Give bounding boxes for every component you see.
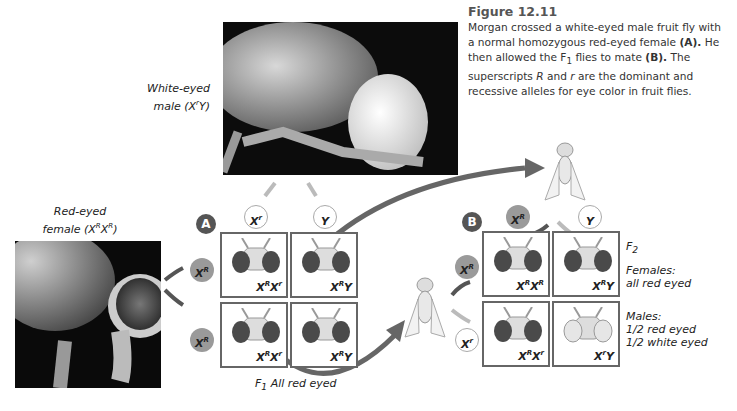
gamete-base: X — [511, 214, 519, 227]
f2-females-summary: Females: all red eyed — [626, 264, 691, 290]
genotype-label: XRY — [330, 350, 352, 364]
males-line-2: 1/2 white eyed — [626, 336, 708, 349]
f2-males-summary: Males: 1/2 red eyed 1/2 white eyed — [626, 310, 708, 349]
red-eyed-fly-head-icon — [492, 307, 544, 347]
gamete-female-1: XR — [190, 258, 214, 282]
gamete-male-2: Y — [313, 205, 337, 229]
dark-arrow-icon — [452, 282, 470, 295]
red-eyed-fly-head-icon — [230, 238, 282, 278]
diagram-arrows — [0, 0, 737, 411]
red-eyed-fly-head-icon — [562, 237, 614, 277]
punnett-b-cell-2: XRY — [552, 231, 620, 297]
punnett-b-cell-4: XrY — [552, 301, 620, 367]
gamete-base: X — [195, 267, 203, 280]
gamete-base: X — [461, 338, 469, 351]
punnett-b-cell-1: XRXR — [482, 231, 550, 297]
male-fly-drawing-icon — [545, 143, 585, 200]
red-eyed-fly-head-icon — [300, 308, 352, 348]
genotype-label: XRXR — [516, 279, 544, 293]
punnett-a-cell-3: XRXr — [220, 302, 288, 368]
gamete-male-2: Y — [578, 205, 602, 229]
genotype-label: XRXr — [256, 350, 282, 364]
genotype-label: XrY — [594, 349, 614, 363]
genotype-label: XRXr — [256, 280, 282, 294]
gamete-sup: r — [259, 214, 262, 222]
cross-a-badge: A — [196, 214, 216, 234]
gamete-sup: R — [520, 213, 525, 221]
red-eyed-fly-head-icon — [492, 237, 544, 277]
punnett-a-cell-4: XRY — [290, 302, 358, 368]
white-eyed-fly-head-icon — [562, 307, 614, 347]
red-eyed-fly-head-icon — [230, 308, 282, 348]
punnett-a-cell-2: XRY — [290, 232, 358, 298]
gamete-male-1: XR — [506, 205, 530, 229]
gamete-base: Y — [586, 215, 594, 228]
gamete-base: X — [460, 264, 468, 277]
gamete-sup: R — [469, 263, 474, 271]
males-line-1: 1/2 red eyed — [626, 323, 708, 336]
punnett-a-cell-1: XRXr — [220, 232, 288, 298]
f2-label: F2 — [626, 240, 638, 256]
red-eyed-fly-head-icon — [300, 238, 352, 278]
dark-arrow-icon — [165, 268, 183, 280]
gamete-sup: R — [204, 336, 209, 344]
female-fly-drawing-icon — [405, 278, 445, 337]
gamete-base: X — [250, 215, 258, 228]
gamete-sup: R — [204, 266, 209, 274]
genotype-label: XRXr — [518, 349, 544, 363]
gamete-male-1: Xr — [244, 205, 268, 229]
genotype-label: XRY — [592, 279, 614, 293]
cross-b-badge: B — [462, 212, 482, 232]
f1-result-label: F1 All red eyed — [255, 377, 337, 393]
hollow-arrow-icon — [265, 183, 275, 196]
gamete-base: X — [195, 337, 203, 350]
hollow-arrow-icon — [308, 183, 316, 196]
hollow-arrow-icon — [452, 310, 470, 322]
dark-arrow-icon — [165, 290, 183, 305]
curved-arrow-icon — [330, 168, 525, 240]
gamete-female-2: XR — [190, 328, 214, 352]
arrow-head-icon — [525, 158, 545, 178]
males-title: Males: — [626, 310, 708, 323]
gamete-female-2: Xr — [455, 328, 479, 352]
females-text: all red eyed — [626, 277, 691, 290]
genotype-label: XRY — [330, 280, 352, 294]
punnett-b-cell-3: XRXr — [482, 301, 550, 367]
gamete-base: Y — [321, 215, 329, 228]
females-title: Females: — [626, 264, 691, 277]
gamete-sup: r — [470, 337, 473, 345]
gamete-female-1: XR — [455, 255, 479, 279]
